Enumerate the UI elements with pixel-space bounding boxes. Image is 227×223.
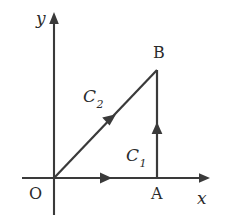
y-axis-label: y — [36, 10, 46, 27]
x-axis-arrowhead-icon — [199, 173, 210, 183]
point-label-a: A — [151, 186, 163, 202]
curve-label-c2-subscript: 2 — [97, 98, 104, 111]
point-label-o: O — [29, 186, 42, 202]
curve-label-c2-base: C — [83, 86, 96, 106]
y-axis — [49, 12, 59, 215]
x-axis-label: x — [197, 190, 207, 207]
curve-label-c1-subscript: 1 — [140, 157, 147, 170]
segment-o-to-a-arrowhead-icon — [100, 173, 112, 184]
y-axis-arrowhead-icon — [49, 12, 59, 24]
curve-label-c1: C1 — [126, 147, 146, 167]
curve-label-c2: C2 — [83, 88, 103, 108]
curve-label-c1-base: C — [126, 145, 139, 165]
segment-a-to-b-arrowhead-icon — [152, 122, 163, 134]
point-label-b: B — [153, 45, 165, 61]
vector-path-diagram: y x O A B C2 C1 — [0, 0, 227, 223]
